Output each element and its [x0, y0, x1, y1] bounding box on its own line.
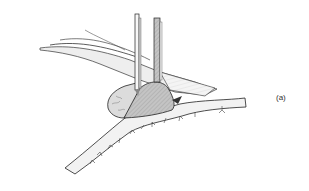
panel-label: (a) [276, 93, 286, 102]
surgical-illustration [0, 0, 309, 191]
